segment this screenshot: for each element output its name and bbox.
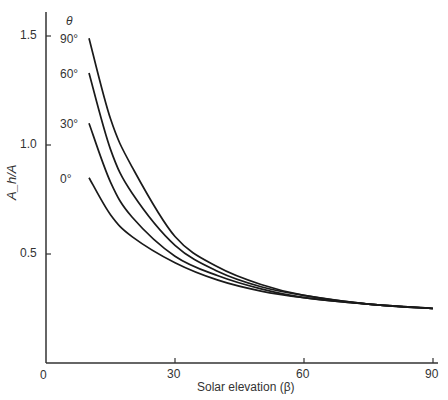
x-axis-label: Solar elevation (β) bbox=[197, 380, 295, 394]
x-tick-label: 60 bbox=[296, 367, 309, 381]
origin-label: 0 bbox=[40, 368, 47, 382]
series-label: 60° bbox=[60, 67, 78, 81]
series-label: 30° bbox=[60, 117, 78, 131]
chart-plot bbox=[0, 0, 448, 400]
y-tick-label: 1.0 bbox=[20, 137, 37, 151]
x-tick-label: 30 bbox=[167, 367, 180, 381]
curve-theta-30 bbox=[89, 123, 433, 308]
curve-theta-90 bbox=[89, 38, 433, 308]
curve-theta-60 bbox=[89, 73, 433, 308]
y-axis-label: A_h/A bbox=[4, 165, 19, 200]
x-tick-label: 90 bbox=[425, 367, 438, 381]
y-tick-label: 1.5 bbox=[20, 28, 37, 42]
y-tick-label: 0.5 bbox=[20, 246, 37, 260]
series-label: 0° bbox=[60, 172, 71, 186]
legend-title: θ bbox=[66, 14, 73, 28]
series-label: 90° bbox=[60, 32, 78, 46]
